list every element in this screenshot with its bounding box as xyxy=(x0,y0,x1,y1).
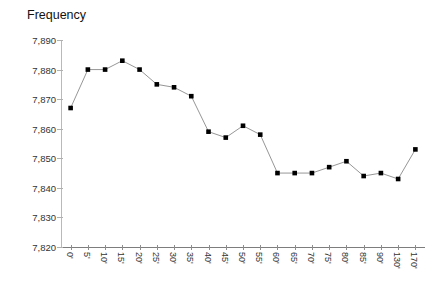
data-point-marker xyxy=(189,94,194,99)
series-line xyxy=(71,61,416,179)
data-point-marker xyxy=(68,106,73,111)
data-point-marker xyxy=(258,132,263,137)
data-point-marker xyxy=(206,129,211,134)
data-point-marker xyxy=(361,174,366,179)
data-point-marker xyxy=(103,67,108,72)
frequency-line-chart: Frequency 7,8907,8807,8707,8607,8507,840… xyxy=(0,0,438,293)
data-point-marker xyxy=(172,85,177,90)
data-point-marker xyxy=(275,171,280,176)
data-point-marker xyxy=(327,165,332,170)
data-point-marker xyxy=(155,82,160,87)
data-point-marker xyxy=(379,171,384,176)
data-point-marker xyxy=(310,171,315,176)
data-point-marker xyxy=(241,123,246,128)
data-point-marker xyxy=(292,171,297,176)
data-series xyxy=(0,0,438,293)
data-point-marker xyxy=(413,147,418,152)
data-point-marker xyxy=(120,58,125,63)
data-point-marker xyxy=(344,159,349,164)
data-point-marker xyxy=(86,67,91,72)
data-point-marker xyxy=(223,135,228,140)
data-point-marker xyxy=(396,177,401,182)
data-point-marker xyxy=(137,67,142,72)
